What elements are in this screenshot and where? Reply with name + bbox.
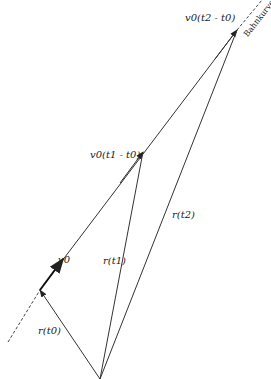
label-r-t2: r(t2) xyxy=(172,210,195,220)
diagram-canvas xyxy=(0,0,271,379)
r-t2-vector xyxy=(100,30,237,379)
v0-t2-arrow xyxy=(215,30,237,59)
label-v0-t1: v0(t1 - t0) xyxy=(90,150,140,160)
label-r-t0: r(t0) xyxy=(38,326,61,336)
label-r-t1: r(t1) xyxy=(103,256,126,266)
trajectory-solid xyxy=(40,30,237,290)
trajectory-dashed-lower xyxy=(8,290,40,342)
label-v0-t2: v0(t2 - t0) xyxy=(185,13,235,23)
label-v0: v0 xyxy=(58,255,70,265)
